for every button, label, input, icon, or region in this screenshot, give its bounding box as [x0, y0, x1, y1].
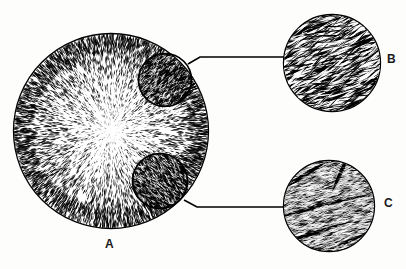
panel-c-texture: [274, 152, 380, 253]
panel-a-spherulite: [11, 31, 212, 232]
figure-canvas: [0, 0, 406, 269]
leader-line-c: [184, 200, 286, 207]
panel-label-a: A: [105, 238, 114, 250]
panel-b-texture: [270, 9, 393, 118]
figure-root: A B C: [0, 0, 406, 269]
panel-label-c: C: [384, 197, 393, 209]
panel-c-inset: [274, 152, 380, 253]
panel-b-inset: [270, 9, 393, 118]
leader-line-b: [188, 57, 286, 64]
panel-label-b: B: [387, 53, 396, 65]
